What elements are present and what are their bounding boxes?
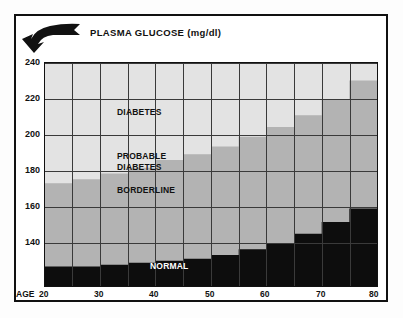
gridline-age-25 — [72, 63, 73, 286]
y-tick-240: 240 — [6, 57, 40, 67]
y-axis: 240 220 200 180 160 140 — [2, 62, 40, 287]
gridline-age-75 — [350, 63, 351, 286]
gridline-age-30 — [100, 63, 101, 286]
gridline-age-50 — [211, 63, 212, 286]
chart-page: PLASMA GLUCOSE (mg/dl) 240 220 200 180 1… — [0, 0, 403, 318]
x-tick-20: 20 — [39, 289, 48, 299]
gridline-age-45 — [183, 63, 184, 286]
plot-area: DIABETES PROBABLE DIABETES BORDERLINE NO… — [44, 62, 378, 287]
age-axis-label: AGE — [16, 289, 34, 299]
y-tick-160: 160 — [6, 201, 40, 211]
gridline-age-65 — [294, 63, 295, 286]
x-tick-30: 30 — [94, 289, 103, 299]
band-label-borderline: BORDERLINE — [117, 185, 175, 196]
gridline-age-60 — [266, 63, 267, 286]
curved-arrow-banner-icon — [20, 22, 82, 54]
gridline-age-35 — [128, 63, 129, 286]
gridline-age-70 — [322, 63, 323, 286]
x-axis: 20 30 40 50 60 70 80 — [44, 289, 378, 303]
x-tick-50: 50 — [205, 289, 214, 299]
y-tick-200: 200 — [6, 129, 40, 139]
x-tick-70: 70 — [316, 289, 325, 299]
band-label-normal: NORMAL — [150, 261, 189, 272]
y-tick-180: 180 — [6, 165, 40, 175]
band-label-diabetes: DIABETES — [117, 107, 162, 118]
y-tick-220: 220 — [6, 93, 40, 103]
band-label-probable-diabetes: PROBABLE DIABETES — [117, 151, 166, 172]
x-tick-40: 40 — [149, 289, 158, 299]
gridline-age-40 — [155, 63, 156, 286]
y-tick-140: 140 — [6, 237, 40, 247]
x-tick-60: 60 — [260, 289, 269, 299]
chart-title: PLASMA GLUCOSE (mg/dl) — [90, 27, 221, 38]
gridline-age-55 — [239, 63, 240, 286]
x-tick-80: 80 — [369, 289, 378, 299]
